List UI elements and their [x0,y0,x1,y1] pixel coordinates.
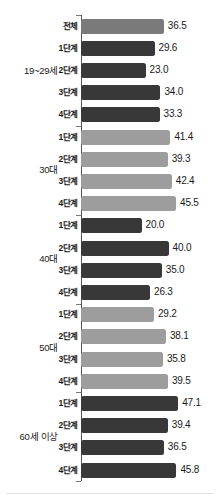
bar [81,174,172,189]
value-label: 39.4 [172,420,191,430]
category-label: 2단계 [58,66,78,75]
group-label: 60세 이상 [20,432,58,442]
group-tick [76,126,81,127]
value-label: 26.3 [154,287,173,297]
group-label: 40대 [39,254,58,264]
value-label: 47.1 [182,398,201,408]
category-label: 전체 [63,22,78,31]
group-label: 50대 [39,343,58,353]
bar [81,241,169,256]
bar [81,41,155,56]
category-label: 4단계 [58,110,78,119]
bar-chart: 전체36.51단계29.62단계23.03단계34.04단계33.31단계41.… [0,0,219,503]
bar [81,85,160,100]
category-label: 3단계 [58,177,78,186]
bar [81,263,162,278]
bar [81,307,154,322]
category-label: 2단계 [58,421,78,430]
value-label: 42.4 [176,176,195,186]
value-label: 36.5 [168,442,187,452]
value-label: 29.2 [158,309,177,319]
group-tick [76,215,81,216]
bar [81,374,168,389]
bar [81,440,164,455]
value-label: 40.0 [173,243,192,253]
value-label: 35.8 [167,354,186,364]
bar [81,396,178,411]
bar [81,130,170,145]
bar [81,196,176,211]
group-tick [76,15,81,16]
group-tick [76,481,81,482]
bar [81,418,168,433]
category-label: 3단계 [58,355,78,364]
category-label: 4단계 [58,288,78,297]
group-tick [76,392,81,393]
bar [81,329,166,344]
bar [81,19,164,34]
value-label: 20.0 [146,220,165,230]
category-label: 1단계 [58,44,78,53]
category-label: 3단계 [58,266,78,275]
value-label: 45.8 [180,465,199,475]
bar [81,463,176,478]
category-label: 2단계 [58,244,78,253]
bar [81,352,163,367]
category-label: 1단계 [58,399,78,408]
value-label: 38.1 [170,331,189,341]
value-label: 33.3 [164,109,183,119]
value-label: 35.0 [166,265,185,275]
category-label: 2단계 [58,155,78,164]
value-label: 23.0 [150,65,169,75]
category-label: 4단계 [58,377,78,386]
category-label: 1단계 [58,221,78,230]
category-label: 3단계 [58,88,78,97]
value-label: 41.4 [174,132,193,142]
group-label: 30대 [39,165,58,175]
bar [81,63,146,78]
category-label: 4단계 [58,199,78,208]
bar [81,107,160,122]
value-label: 36.5 [168,21,187,31]
bar [81,152,168,167]
bar [81,285,150,300]
value-label: 39.5 [172,376,191,386]
value-label: 45.5 [180,198,199,208]
category-label: 4단계 [58,466,78,475]
value-label: 39.3 [172,154,191,164]
category-label: 1단계 [58,310,78,319]
category-label: 3단계 [58,443,78,452]
footer-divider [6,493,213,494]
category-label: 2단계 [58,332,78,341]
group-tick [76,304,81,305]
category-label: 1단계 [58,133,78,142]
value-label: 34.0 [164,87,183,97]
value-label: 29.6 [159,43,178,53]
group-label: 19~29세 [24,66,58,76]
bar [81,218,142,233]
